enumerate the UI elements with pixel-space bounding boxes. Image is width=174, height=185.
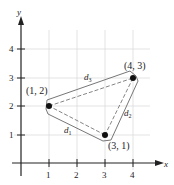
dashed-triangle — [49, 78, 133, 135]
x-tick-4: 4 — [130, 170, 135, 180]
distance-label-d2: d2 — [124, 108, 132, 119]
point-label-1-2: (1, 2) — [26, 85, 48, 97]
y-tick-2: 2 — [9, 101, 14, 111]
distance-label-d3: d3 — [84, 72, 92, 83]
coordinate-plane: x y 1 2 3 4 1 2 3 4 (1, 2) (4, 3) (3, 1)… — [0, 0, 174, 185]
segment-d2 — [105, 78, 133, 135]
x-axis-arrow-icon — [155, 160, 164, 166]
point-label-4-3: (4, 3) — [124, 60, 146, 72]
point-label-3-1: (3, 1) — [108, 140, 130, 152]
y-axis-label: y — [16, 7, 21, 17]
x-tick-2: 2 — [74, 170, 79, 180]
distance-label-d1: d1 — [64, 125, 72, 136]
axes — [12, 20, 160, 176]
y-tick-4: 4 — [9, 44, 14, 54]
x-axis-label: x — [163, 159, 168, 169]
point-4-3 — [130, 75, 136, 81]
y-tick-1: 1 — [9, 130, 14, 140]
point-3-1 — [102, 132, 108, 138]
y-tick-3: 3 — [9, 73, 14, 83]
x-tick-1: 1 — [46, 170, 51, 180]
point-1-2 — [46, 103, 52, 109]
x-tick-3: 3 — [102, 170, 107, 180]
y-axis-arrow-icon — [18, 16, 24, 25]
